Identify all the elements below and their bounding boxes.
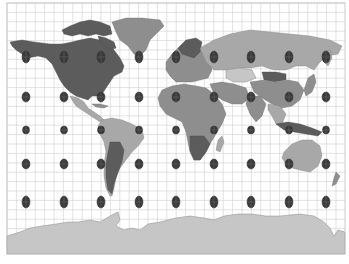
world-map <box>0 0 349 264</box>
kazakhstan <box>226 68 256 82</box>
